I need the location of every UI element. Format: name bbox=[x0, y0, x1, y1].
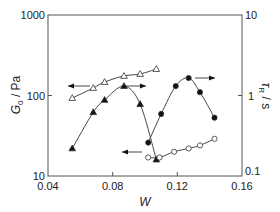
y-right-axis-title: τR / s bbox=[257, 83, 273, 109]
open-circle-marker bbox=[157, 155, 162, 160]
filled-circle-marker bbox=[146, 140, 151, 145]
y-left-axis-title: G0 / Pa bbox=[9, 75, 25, 114]
y-left-tick-100: 100 bbox=[27, 90, 45, 102]
y-left-tick-1000: 1000 bbox=[21, 9, 45, 21]
y-right-tick-0.1: 0.1 bbox=[245, 165, 260, 177]
axis-arrow-left-icon bbox=[122, 150, 142, 155]
x-tick-1: 0.08 bbox=[102, 180, 123, 192]
x-axis-title: W bbox=[139, 195, 152, 209]
open-circle-marker bbox=[186, 146, 191, 151]
open-triangle-marker bbox=[153, 66, 160, 72]
tick-marks bbox=[48, 96, 242, 177]
open-circle-marker bbox=[172, 149, 177, 154]
series-2 bbox=[146, 75, 217, 145]
series-line bbox=[148, 78, 214, 143]
open-circle-marker bbox=[212, 136, 217, 141]
x-tick-2: 0.12 bbox=[167, 180, 188, 192]
series-line bbox=[72, 86, 156, 160]
axis-arrow-left-icon bbox=[68, 84, 90, 89]
open-circle-marker bbox=[146, 155, 151, 160]
series-layer bbox=[68, 66, 217, 162]
filled-circle-marker bbox=[173, 83, 178, 88]
y-right-tick-10: 10 bbox=[245, 9, 257, 21]
x-tick-3: 0.16 bbox=[231, 180, 252, 192]
open-triangle-marker bbox=[90, 85, 97, 91]
series-1 bbox=[69, 83, 160, 162]
y-right-tick-1: 1 bbox=[248, 90, 254, 102]
axis-arrow-right-icon bbox=[195, 76, 215, 81]
y-left-tick-10: 10 bbox=[33, 170, 45, 182]
filled-circle-marker bbox=[186, 75, 191, 80]
filled-circle-marker bbox=[197, 90, 202, 95]
chart: 0.04 0.08 0.12 0.16 10 100 1000 0.1 1 10… bbox=[0, 0, 280, 212]
series-0 bbox=[69, 66, 160, 101]
open-circle-marker bbox=[197, 143, 202, 148]
filled-triangle-marker bbox=[69, 145, 76, 151]
filled-triangle-marker bbox=[137, 101, 144, 107]
filled-circle-marker bbox=[159, 111, 164, 116]
open-triangle-marker bbox=[69, 95, 76, 101]
filled-circle-marker bbox=[212, 115, 217, 120]
series-line bbox=[72, 69, 156, 98]
